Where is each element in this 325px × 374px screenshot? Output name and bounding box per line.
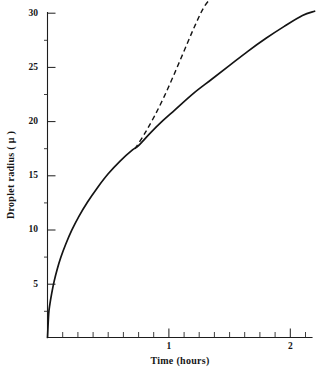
y-tick-label-5: 5 [33,279,38,289]
x-axis-title: Time (hours) [150,355,209,367]
chart-figure: 30 25 20 15 10 5 1 [0,0,325,374]
y-tick-label-10: 10 [29,224,39,234]
y-tick-label-25: 25 [29,62,39,72]
y-tick-label-15: 15 [29,170,39,180]
droplet-radius-vs-time-chart: 30 25 20 15 10 5 1 [0,0,325,374]
x-tick-label-1: 1 [167,341,172,351]
y-tick-label-20: 20 [29,116,39,126]
x-tick-label-2: 2 [288,341,293,351]
y-tick-label-30: 30 [29,8,39,18]
y-axis-title: Droplet radius ( μ ) [5,131,17,219]
